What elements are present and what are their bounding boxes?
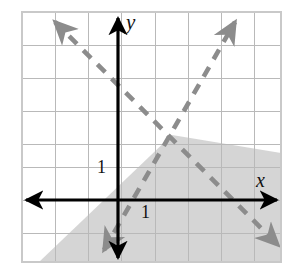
x-axis-label: x [256, 170, 265, 190]
graph-figure: y x 1 1 [0, 0, 290, 271]
y-axis-tick-label-1: 1 [97, 158, 106, 176]
coordinate-plane-svg [0, 0, 290, 271]
x-axis-tick-label-1: 1 [141, 203, 150, 221]
y-axis-label: y [126, 12, 135, 33]
